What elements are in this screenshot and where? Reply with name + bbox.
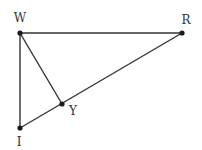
point-w: [17, 30, 22, 35]
segment-wy: [20, 33, 62, 104]
point-r: [179, 30, 184, 35]
segment-ir: [20, 33, 182, 128]
label-w: W: [14, 11, 27, 25]
segments-group: [20, 33, 182, 128]
point-y: [59, 101, 64, 106]
point-i: [17, 125, 22, 130]
label-y: Y: [68, 104, 78, 118]
triangle-diagram: WRIY: [0, 0, 202, 150]
label-r: R: [181, 13, 191, 27]
label-i: I: [17, 135, 22, 149]
